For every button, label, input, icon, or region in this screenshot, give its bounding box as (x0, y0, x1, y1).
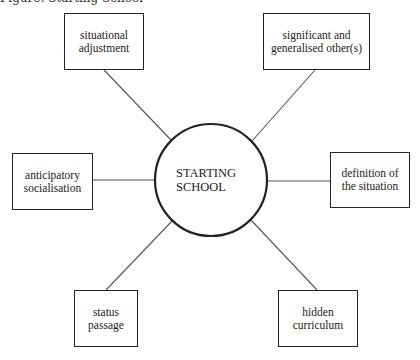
connector-status-passage (106, 221, 172, 290)
node-label: significant and generalised other(s) (271, 29, 362, 55)
node-label: status passage (88, 306, 124, 332)
node-label: situational adjustment (79, 29, 129, 55)
connector-situational-adjustment (104, 70, 171, 140)
node-hidden-curriculum: hidden curriculum (278, 290, 358, 347)
node-significant-and-generalised-others: significant and generalised other(s) (263, 13, 370, 70)
node-label: definition of the situation (341, 167, 398, 193)
node-label: anticipatory socialisation (24, 169, 82, 195)
node-label: hidden curriculum (293, 306, 343, 332)
concept-diagram: Figure: Starting School situational adju… (0, 0, 420, 360)
center-node-label: STARTING SCHOOL (176, 166, 236, 194)
node-anticipatory-socialisation: anticipatory socialisation (12, 153, 93, 210)
connector-hidden-curriculum (251, 220, 317, 290)
connector-significant-and-generalised-others (252, 70, 315, 141)
node-definition-of-the-situation: definition of the situation (330, 152, 410, 208)
node-situational-adjustment: situational adjustment (64, 13, 144, 70)
node-status-passage: status passage (74, 290, 138, 347)
